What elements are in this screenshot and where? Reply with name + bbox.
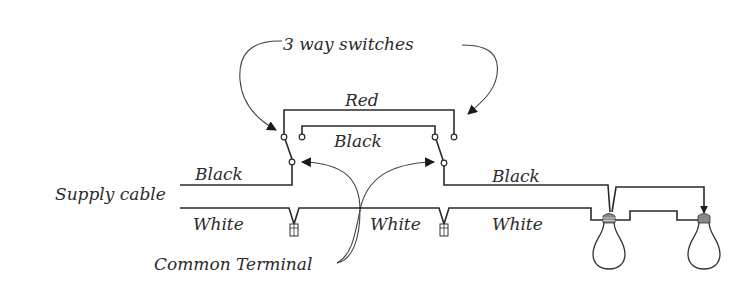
red-traveler-label: Red (344, 90, 379, 110)
switch-1-traveler-terminal-b (299, 134, 305, 140)
lamp-1-bulb (593, 222, 625, 269)
switch-2-traveler-terminal-a (432, 134, 438, 140)
common-terminal-leader-left (302, 162, 360, 263)
white-mid-label: White (370, 214, 421, 234)
lamp-2-socket (698, 214, 710, 224)
common-terminal-label: Common Terminal (154, 254, 312, 274)
white-lamp-label: White (492, 214, 543, 234)
switch-1-common-terminal (289, 159, 295, 165)
switch-1-traveler-terminal-a (281, 134, 287, 140)
lamp-2 (688, 214, 720, 270)
common-terminal-leader-right (337, 162, 434, 263)
lamp-black-branch (612, 187, 704, 213)
switch-2-lever (436, 139, 443, 160)
switch-1-lever (285, 139, 292, 159)
lamp-1 (593, 214, 625, 270)
black-traveler-label: Black (333, 131, 382, 151)
switch-2 (432, 134, 457, 166)
wire-nut-1 (290, 224, 298, 236)
black-lamp-label: Black (491, 166, 540, 186)
supply-cable-label: Supply cable (55, 184, 166, 204)
switches-label: 3 way switches (283, 34, 414, 54)
black-supply-label: Black (194, 164, 243, 184)
white-supply-label: White (193, 214, 244, 234)
lamp-2-bulb (688, 222, 720, 269)
wire-nut-2 (440, 224, 448, 236)
switch-1 (281, 134, 305, 165)
white-lamp-link-wire (616, 211, 698, 220)
switch-2-traveler-terminal-b (451, 134, 457, 140)
switch-2-leader-arrow (462, 45, 498, 114)
switch-2-common-terminal (441, 160, 447, 166)
switch-1-leader-arrow (240, 41, 282, 130)
three-way-switch-wiring-diagram: 3 way switches Red Black Black Supply ca… (0, 0, 754, 288)
